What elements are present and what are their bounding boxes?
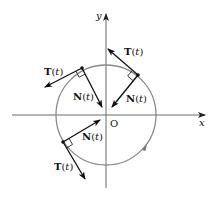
point-marker — [136, 73, 140, 77]
normal-label-upper-left: N(t) — [73, 91, 94, 102]
y-axis-label: y — [95, 10, 102, 21]
paren: ) — [143, 93, 147, 104]
normal-label-upper-right: N(t) — [126, 93, 147, 104]
point-marker — [80, 66, 84, 70]
label-N: N — [82, 131, 91, 142]
tangent-normal-diagram: y x O T(t) N(t) T(t) N(t) N(t) T(t) — [0, 0, 218, 199]
tangent-label-upper-right: T(t) — [124, 46, 143, 57]
label-N: N — [126, 93, 135, 104]
paren: ) — [59, 66, 63, 77]
normal-label-lower-left: N(t) — [82, 131, 103, 142]
circle-direction-arrow-icon — [142, 144, 147, 151]
tangent-label-upper-left: T(t) — [44, 66, 63, 77]
paren: ) — [99, 131, 103, 142]
label-N: N — [73, 91, 82, 102]
paren: ) — [69, 161, 73, 172]
point-marker — [61, 140, 65, 144]
origin-label: O — [110, 118, 118, 129]
paren: ) — [139, 46, 143, 57]
paren: ) — [90, 91, 94, 102]
x-axis-label: x — [199, 117, 205, 128]
tangent-label-lower-left: T(t) — [54, 161, 73, 172]
